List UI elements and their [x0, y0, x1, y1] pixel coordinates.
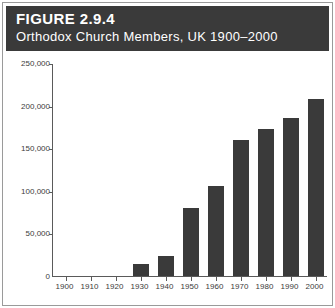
x-axis-tick [166, 276, 167, 281]
x-axis-tick-label: 1960 [206, 282, 224, 292]
y-axis-tick-label: 100,000 [6, 188, 50, 196]
y-axis-tick [49, 107, 53, 108]
bar [208, 186, 224, 276]
y-axis-tick [49, 192, 53, 193]
x-axis-tick [266, 276, 267, 281]
chart-inner: 050,000100,000150,000200,000250,000 1900… [6, 56, 329, 302]
x-axis-tick [316, 276, 317, 281]
x-axis-tick-label: 1980 [256, 282, 274, 292]
figure-subtitle: Orthodox Church Members, UK 1900–2000 [16, 27, 329, 46]
bar [133, 264, 149, 276]
y-axis-tick [49, 149, 53, 150]
x-axis-tick [216, 276, 217, 281]
x-axis-tick [66, 276, 67, 281]
figure-container: FIGURE 2.9.4 Orthodox Church Members, UK… [0, 0, 335, 308]
y-axis-tick [49, 64, 53, 65]
x-axis-tick-label: 1900 [56, 282, 74, 292]
bar [158, 256, 174, 276]
x-axis-tick [291, 276, 292, 281]
y-axis-tick-label: 200,000 [6, 103, 50, 111]
chart-plot-area: 050,000100,000150,000200,000250,000 1900… [6, 56, 329, 302]
x-axis-tick-label: 1930 [131, 282, 149, 292]
x-axis-tick-label: 1950 [181, 282, 199, 292]
x-axis-tick-label: 1990 [281, 282, 299, 292]
x-axis-tick [116, 276, 117, 281]
x-axis-tick-label: 1920 [106, 282, 124, 292]
bar [183, 208, 199, 276]
x-axis-tick [141, 276, 142, 281]
x-axis-tick [191, 276, 192, 281]
bar [233, 140, 249, 276]
bars-layer [53, 64, 327, 276]
figure-header-band: FIGURE 2.9.4 Orthodox Church Members, UK… [6, 6, 329, 51]
y-axis-tick-label: 250,000 [6, 60, 50, 68]
x-axis-tick-label: 1910 [81, 282, 99, 292]
chart-axes [52, 64, 327, 277]
x-axis-tick-label: 1970 [231, 282, 249, 292]
y-axis-tick-label: 0 [6, 273, 50, 281]
bar [258, 129, 274, 276]
x-axis-tick [91, 276, 92, 281]
x-axis-labels: 1900191019201930194019501960197019801990… [52, 282, 327, 296]
figure-number: FIGURE 2.9.4 [16, 10, 329, 27]
x-axis-tick-label: 2000 [306, 282, 324, 292]
y-axis-tick-label: 50,000 [6, 230, 50, 238]
x-axis-tick [241, 276, 242, 281]
bar [308, 99, 324, 276]
x-axis-tick-label: 1940 [156, 282, 174, 292]
y-axis-tick [49, 234, 53, 235]
bar [283, 118, 299, 276]
y-axis-labels: 050,000100,000150,000200,000250,000 [6, 56, 50, 277]
y-axis-tick-label: 150,000 [6, 145, 50, 153]
